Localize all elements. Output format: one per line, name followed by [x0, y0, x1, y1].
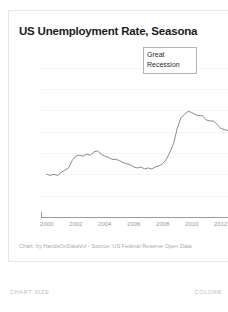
x-tick-label: 2002 [69, 221, 82, 227]
x-axis-ticks: 2000200220042006200820102012 [41, 221, 228, 233]
x-tick-label: 2008 [156, 221, 169, 227]
colors-label[interactable]: COLORB [195, 289, 222, 295]
x-tick-label: 2012 [214, 221, 227, 227]
x-axis-line [41, 217, 228, 218]
y-axis [19, 57, 41, 217]
chart-title: US Unemployment Rate, Seasona [19, 25, 228, 37]
x-tick-label: 2010 [185, 221, 198, 227]
chart-card: US Unemployment Rate, Seasona 1412108642… [8, 10, 228, 262]
chart-editor-screen: US Unemployment Rate, Seasona 1412108642… [0, 0, 228, 312]
chart-size-label[interactable]: CHART SIZE [10, 289, 50, 295]
chart-credit: Chart: by HandsOnDataViz - Source: US Fe… [19, 243, 192, 249]
x-tick-label: 2006 [127, 221, 140, 227]
annotation-line-1: Great [147, 50, 193, 60]
unemployment-line-series [41, 57, 228, 217]
great-recession-annotation[interactable]: Great Recession [143, 47, 197, 74]
plot-area: 14121086420 2000200220042006200820102012 [19, 57, 228, 235]
footer-controls: CHART SIZE COLORB [0, 278, 228, 312]
x-tick-label: 2004 [98, 221, 111, 227]
x-tick-label: 2000 [40, 221, 53, 227]
annotation-line-2: Recession [147, 60, 193, 70]
